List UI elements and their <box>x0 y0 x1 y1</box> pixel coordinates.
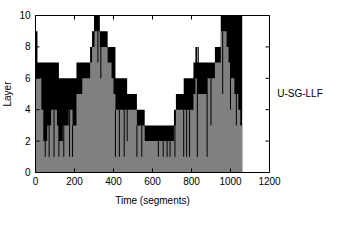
y-tick-label: 2 <box>25 136 31 147</box>
x-tick-label: 1000 <box>219 176 242 187</box>
series-annotation-label: U-SG-LLF <box>277 88 323 99</box>
x-axis-title: Time (segments) <box>115 195 190 206</box>
y-tick-label: 6 <box>25 73 31 84</box>
chart-svg: 0200400600800100012000246810Time (segmen… <box>0 0 361 227</box>
x-tick-label: 800 <box>183 176 200 187</box>
y-tick-label: 4 <box>25 104 31 115</box>
figure-container: 0200400600800100012000246810Time (segmen… <box>0 0 361 227</box>
x-tick-label: 400 <box>105 176 122 187</box>
y-tick-label: 0 <box>25 167 31 178</box>
x-tick-label: 0 <box>33 176 39 187</box>
y-tick-label: 10 <box>19 10 31 21</box>
x-tick-label: 600 <box>144 176 161 187</box>
x-tick-label: 1200 <box>258 176 281 187</box>
y-axis-title: Layer <box>2 81 13 107</box>
y-tick-label: 8 <box>25 41 31 52</box>
x-tick-label: 200 <box>66 176 83 187</box>
